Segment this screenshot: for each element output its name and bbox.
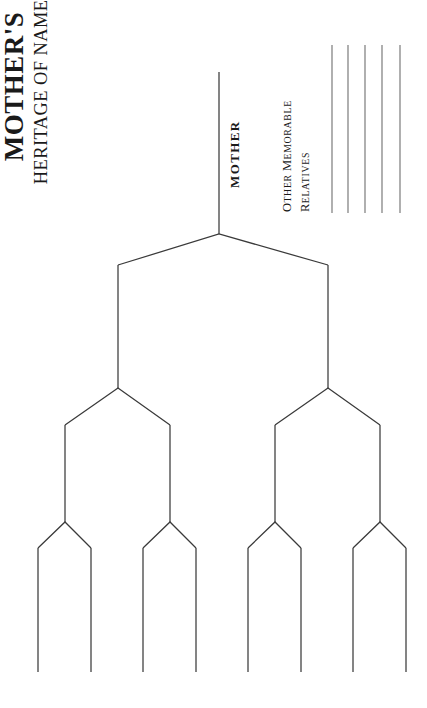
omr-elatives: ELATIVES [300,152,311,203]
page-canvas: MOTHER'S HERITAGE OF NAMES MOTHER OTHER … [0,0,427,708]
write-in-rule-lines[interactable] [0,0,427,708]
omr-emorable: EMORABLE [282,100,293,159]
other-memorable-relatives-caption: OTHER MEMORABLE RELATIVES [278,92,314,212]
omr-cap-r: R [298,203,312,212]
omr-cap-m: M [280,160,294,172]
omr-ther: THER [282,171,293,203]
omr-caption-line-2: RELATIVES [296,92,314,212]
mother-label: MOTHER [227,120,243,188]
omr-caption-line-1: OTHER MEMORABLE [278,92,296,212]
omr-cap-o: O [280,203,294,212]
